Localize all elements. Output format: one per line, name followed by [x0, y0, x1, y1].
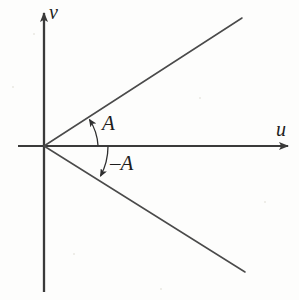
v-axis-label: v	[49, 2, 58, 22]
figure-root: v u A –A	[0, 0, 299, 300]
angle-arc-positive	[90, 120, 99, 146]
diagram-canvas	[0, 0, 299, 300]
ray-positive-angle	[44, 18, 242, 146]
u-axis-label: u	[276, 119, 286, 139]
angle-arc-negative	[101, 147, 109, 177]
angle-label-positive: A	[102, 113, 115, 134]
ray-negative-angle	[44, 146, 245, 272]
angle-label-negative: –A	[110, 153, 133, 174]
